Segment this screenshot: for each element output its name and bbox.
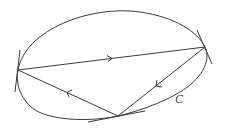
tangent-line-bottom [88, 111, 145, 122]
diagram-canvas: C [0, 0, 226, 129]
edge-right-to-bottom [118, 47, 205, 116]
curve-label: C [175, 92, 184, 106]
